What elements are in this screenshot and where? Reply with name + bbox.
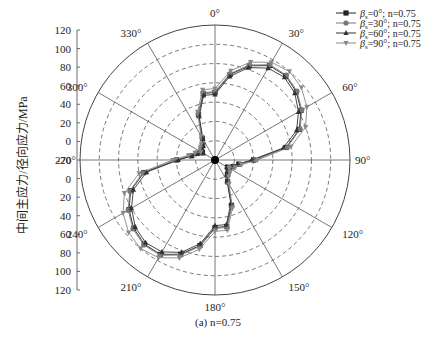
y-tick-label: 120 — [55, 24, 72, 36]
circle-marker-icon — [343, 20, 348, 25]
spoke-line — [148, 43, 216, 160]
polar-chart: 0°30°60°90°120°150°180°210°240°270°300°3… — [0, 0, 437, 339]
triangle-down-marker-icon — [121, 211, 126, 216]
y-tick-label: 60 — [60, 228, 72, 240]
y-tick-label: 0 — [66, 173, 72, 185]
y-tick-label: -20 — [56, 154, 71, 166]
angle-label: 30° — [289, 27, 304, 39]
y-axis-label: 中间主应力/径向应力/MPa — [15, 96, 30, 234]
triangle-down-marker-icon — [156, 256, 161, 261]
circle-marker-icon — [299, 107, 304, 112]
y-tick-label: 60 — [60, 80, 72, 92]
angle-label: 150° — [289, 281, 310, 293]
legend: βs=0°; n=0.75βs=30°; n=0.75βs=60°; n=0.7… — [336, 8, 421, 51]
angle-label: 60° — [342, 81, 357, 93]
angle-label: 330° — [121, 27, 142, 39]
y-tick-label: 80 — [60, 247, 72, 259]
angle-label: 120° — [342, 228, 363, 240]
triangle-down-marker-icon — [122, 191, 127, 196]
y-tick-label: 100 — [55, 43, 72, 55]
y-tick-label: 40 — [60, 210, 72, 222]
circle-marker-icon — [298, 126, 303, 131]
chart-caption: (a) n=0.75 — [195, 316, 241, 329]
center-point — [211, 156, 219, 164]
triangle-down-marker-icon — [299, 85, 304, 90]
triangle-down-marker-icon — [304, 105, 309, 110]
y-tick-label: 20 — [60, 191, 72, 203]
y-axis: 120100806040200-20020406080100120 — [55, 24, 81, 296]
spoke-line — [148, 160, 216, 277]
angle-label: 0° — [210, 7, 220, 19]
y-tick-label: 40 — [60, 98, 72, 110]
triangle-down-marker-icon — [177, 256, 182, 261]
spoke-line — [215, 160, 283, 277]
angle-label: 90° — [355, 154, 370, 166]
y-tick-label: 100 — [55, 265, 72, 277]
spoke-line — [98, 160, 215, 228]
legend-label: βs=90°; n=0.75 — [359, 38, 421, 51]
spoke-line — [98, 93, 215, 161]
y-tick-label: 80 — [60, 61, 72, 73]
angle-label: 180° — [205, 301, 226, 313]
y-tick-label: 20 — [60, 117, 72, 129]
square-marker-icon — [343, 10, 348, 15]
y-tick-label: 120 — [55, 284, 72, 296]
spoke-line — [215, 160, 332, 228]
y-tick-label: 0 — [66, 135, 72, 147]
spoke-line — [215, 93, 332, 161]
angle-label: 210° — [121, 281, 142, 293]
